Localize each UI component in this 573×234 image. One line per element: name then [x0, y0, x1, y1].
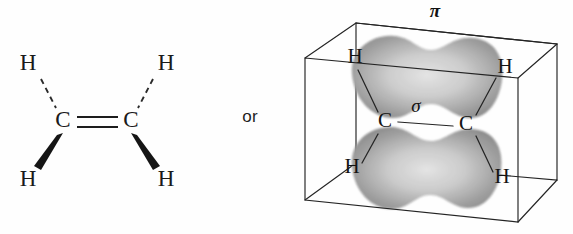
connector-panel: or	[210, 0, 290, 234]
atom-label-h-lower-right: H	[158, 166, 175, 191]
sigma-symbol-label: σ	[411, 95, 421, 116]
atom-label-3d-h-upper-right: H	[497, 54, 512, 78]
box-edge-bottom-right-depth	[518, 180, 557, 222]
bond-c2-h2-hashed	[138, 79, 153, 108]
atom-label-c-left: C	[55, 107, 70, 132]
atom-label-3d-h-upper-left: H	[347, 44, 362, 68]
lewis-structure-svg: H H C C H H	[0, 0, 210, 234]
orbital-diagram-svg: H H C C H H π σ	[290, 0, 573, 234]
pi-lobe-lower	[352, 127, 502, 209]
atom-label-3d-h-lower-right: H	[494, 164, 509, 188]
bond-c1-h3-wedge	[34, 133, 63, 170]
box-edge-top-right-depth	[518, 44, 557, 78]
orbital-diagram-panel: H H C C H H π σ	[290, 0, 573, 234]
ethylene-structure-figure: H H C C H H or	[0, 0, 573, 234]
bond-c1-c2-sigma	[398, 122, 453, 126]
atom-label-c-right: C	[123, 107, 138, 132]
bond-c2-h4-wedge	[131, 133, 160, 170]
atom-label-3d-h-lower-left: H	[344, 154, 359, 178]
atom-label-h-upper-right: H	[158, 50, 175, 75]
atom-label-3d-c-right: C	[459, 111, 473, 135]
bond-c1-h1-hashed	[41, 79, 56, 108]
atom-label-h-upper-left: H	[20, 50, 37, 75]
atom-label-h-lower-left: H	[20, 166, 37, 191]
connector-wrapper: or	[210, 0, 290, 234]
connector-text: or	[242, 107, 258, 127]
atom-label-3d-c-left: C	[378, 108, 392, 132]
lewis-structure-panel: H H C C H H	[0, 0, 210, 234]
pi-symbol-label: π	[430, 0, 441, 21]
